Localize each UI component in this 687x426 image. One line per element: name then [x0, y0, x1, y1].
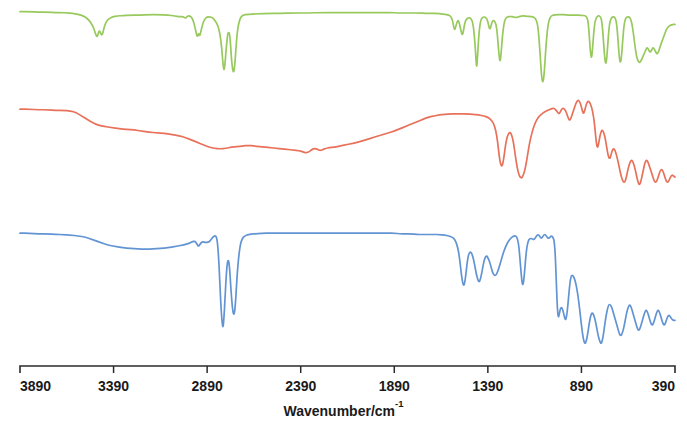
x-tick-label: 2390 — [285, 378, 316, 394]
x-tick-label: 3890 — [20, 378, 51, 394]
x-tick-label: 1390 — [472, 378, 503, 394]
spectra-plot: 389033902890239018901390890390 Wavenumbe… — [0, 0, 687, 426]
x-tick-label: 390 — [652, 378, 676, 394]
spectra-traces — [20, 12, 675, 344]
x-axis-tick-labels: 389033902890239018901390890390 — [20, 378, 675, 394]
spectrum-line-2 — [20, 100, 675, 184]
x-axis-line — [20, 366, 675, 373]
ir-spectra-figure: 389033902890239018901390890390 Wavenumbe… — [0, 0, 687, 426]
spectrum-line-1 — [20, 12, 675, 82]
spectrum-line-3 — [20, 233, 675, 343]
x-axis-title-base: Wavenumber/cm — [284, 403, 396, 419]
x-tick-label: 2890 — [192, 378, 223, 394]
x-tick-label: 890 — [570, 378, 594, 394]
x-axis-title-exponent: -1 — [395, 398, 404, 409]
x-axis — [20, 366, 675, 373]
x-axis-title: Wavenumber/cm-1 — [284, 398, 405, 420]
x-tick-label: 1890 — [379, 378, 410, 394]
x-tick-label: 3390 — [98, 378, 129, 394]
